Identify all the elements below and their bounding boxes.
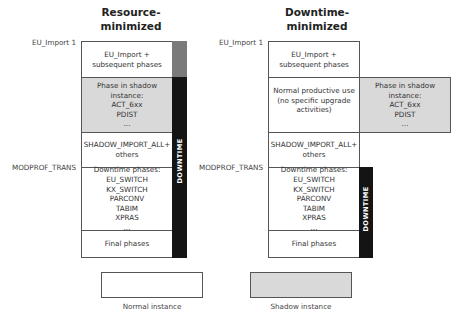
label-eu-import-left: EU_Import 1 — [4, 38, 76, 47]
phase-shadow-import-all: SHADOW_IMPORT_ALL+ others — [81, 132, 173, 168]
legend-normal-label: Normal instance — [101, 302, 203, 311]
uptime-bar — [172, 41, 187, 78]
label-eu-import-right: EU_Import 1 — [190, 38, 263, 47]
phase-final: Final phases — [268, 230, 360, 258]
phase-shadow-instance: Phase in shadow instance: ACT_6xx PDIST … — [81, 77, 173, 133]
label-modprof-trans-left: MODPROF_TRANS — [0, 163, 76, 172]
downtime-bar: DOWNTIME — [359, 167, 373, 258]
column-title-downtime-minimized: Downtime- minimized — [262, 5, 372, 33]
downtime-label: DOWNTIME — [362, 187, 370, 232]
downtime-bar: DOWNTIME — [172, 77, 187, 258]
resource-minimized-column: EU_Import + subsequent phases Phase in s… — [81, 41, 187, 258]
label-modprof-trans-right: MODPROF_TRANS — [186, 163, 263, 172]
legend-shadow-swatch — [250, 272, 352, 298]
phase-shadow-instance: Phase in shadow instance: ACT_6xx PDIST … — [359, 77, 451, 133]
column-title-resource-minimized: Resource- minimized — [76, 5, 186, 33]
phase-downtime-phases: Downtime phases: EU_SWITCH KX_SWITCH PAR… — [81, 167, 173, 231]
legend-normal-swatch — [101, 272, 203, 298]
phase-normal-productive-use: Normal productive use (no specific upgra… — [268, 77, 360, 133]
downtime-label: DOWNTIME — [176, 139, 184, 184]
phase-final: Final phases — [81, 230, 173, 258]
downtime-minimized-column: EU_Import + subsequent phases Normal pro… — [268, 41, 452, 258]
phase-shadow-import-all: SHADOW_IMPORT_ALL+ others — [268, 132, 360, 168]
legend-shadow-label: Shadow instance — [250, 302, 352, 311]
phase-downtime-phases: Downtime phases: EU_SWITCH KX_SWITCH PAR… — [268, 167, 360, 231]
phase-eu-import: EU_Import + subsequent phases — [81, 41, 173, 78]
phase-eu-import: EU_Import + subsequent phases — [268, 41, 360, 78]
